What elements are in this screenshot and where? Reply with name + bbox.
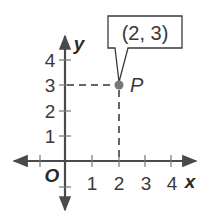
origin-label: O [45, 165, 60, 186]
coordinate-plane: 1 2 3 4 1 2 3 4 x y O (2, 3) P [0, 0, 207, 215]
point-p [115, 81, 124, 90]
callout-text: (2, 3) [122, 22, 169, 44]
x-axis-label: x [184, 171, 197, 192]
y-tick-label-3: 3 [45, 75, 56, 96]
x-tick-label-2: 2 [114, 173, 125, 194]
y-tick-label-4: 4 [45, 50, 56, 71]
x-tick-label-1: 1 [87, 173, 98, 194]
y-tick-label-2: 2 [45, 101, 56, 122]
y-axis-label: y [73, 33, 86, 54]
x-tick-label-4: 4 [167, 173, 178, 194]
x-tick-label-3: 3 [141, 173, 152, 194]
y-tick-label-1: 1 [45, 126, 56, 147]
point-p-label: P [130, 74, 144, 96]
